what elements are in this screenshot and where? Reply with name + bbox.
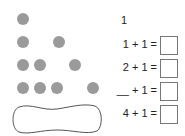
drawing-area-blob[interactable] — [11, 103, 103, 135]
dot — [69, 59, 81, 71]
dot — [17, 82, 29, 94]
dot — [51, 82, 63, 94]
equation-label: __ + 1 = — [117, 84, 157, 96]
start-number: 1 — [121, 14, 127, 26]
equation-label: 1 + 1 = — [123, 38, 157, 50]
dot — [17, 59, 29, 71]
dot — [34, 59, 46, 71]
answer-box[interactable] — [160, 36, 178, 55]
dot — [87, 82, 99, 94]
answer-box[interactable] — [160, 82, 178, 101]
equation-label: 4 + 1 = — [123, 107, 157, 119]
dot — [17, 13, 29, 25]
equation-label: 2 + 1 = — [123, 61, 157, 73]
dot — [34, 82, 46, 94]
answer-box[interactable] — [160, 59, 178, 78]
dot — [17, 36, 29, 48]
answer-box[interactable] — [160, 105, 178, 124]
dot — [53, 36, 65, 48]
